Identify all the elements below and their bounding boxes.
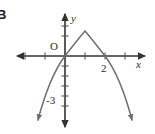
x-axis-label: x: [135, 58, 141, 70]
y-tick-label-minus3: -3: [46, 94, 56, 106]
figure-panel: B: [0, 0, 155, 134]
x-intercept-label-2: 2: [101, 62, 107, 74]
x-axis: [17, 53, 145, 60]
y-axis: [62, 14, 69, 127]
parabola-graph: O 2 -3 x y: [0, 0, 155, 134]
origin-label: O: [50, 40, 58, 52]
y-axis-label: y: [70, 12, 76, 24]
